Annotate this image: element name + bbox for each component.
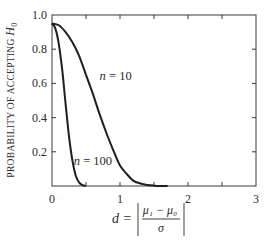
y-tick-label: 0.4 (32, 111, 47, 125)
x-axis-label-denominator: σ (158, 221, 165, 235)
curve-label: n = 10 (100, 69, 132, 83)
x-tick-label: 0 (49, 192, 55, 206)
y-axis-label: PROBABILITY OF ACCEPTING H0 (3, 22, 19, 177)
x-axis-label-numerator: μ₁ − μ₀ (142, 203, 178, 217)
oc-curve-chart: PROBABILITY OF ACCEPTING H0 1.00.80.60.4… (0, 0, 265, 244)
y-tick-labels: 1.00.80.60.40.2 (32, 8, 47, 159)
x-axis-label-lhs: d = (112, 211, 132, 226)
y-tick-label: 0.8 (32, 42, 47, 56)
y-axis-label-sub: 0 (10, 22, 19, 26)
x-tick-label: 2 (185, 192, 191, 206)
y-tick-label: 0.6 (32, 76, 47, 90)
x-axis-label: d = μ₁ − μ₀ σ (112, 203, 184, 236)
curve-label: n = 100 (74, 154, 112, 168)
y-tick-label: 1.0 (32, 8, 47, 22)
x-tick-label: 1 (117, 192, 123, 206)
y-tick-label: 0.2 (32, 145, 47, 159)
svg-text:PROBABILITY OF ACCEPTING H0: PROBABILITY OF ACCEPTING H0 (3, 22, 19, 177)
x-tick-label: 3 (253, 192, 259, 206)
curve-labels: n = 10n = 100 (74, 69, 132, 168)
y-axis-label-text: PROBABILITY OF ACCEPTING (6, 36, 16, 178)
